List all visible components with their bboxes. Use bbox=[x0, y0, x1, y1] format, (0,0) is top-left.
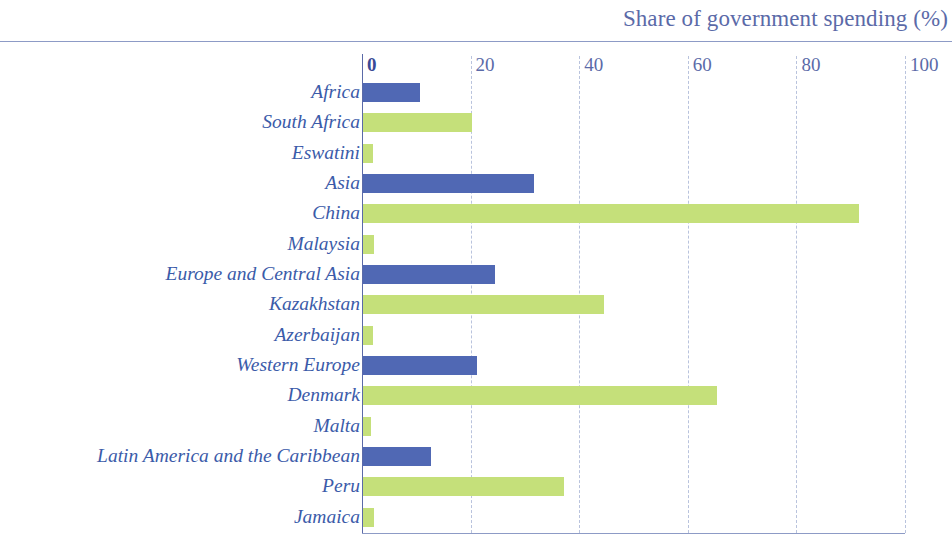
x-axis-tick-label-0: 0 bbox=[367, 54, 377, 76]
chart-row: Latin America and the Caribbean bbox=[0, 442, 952, 472]
bar-asia bbox=[363, 174, 534, 193]
chart-row: Africa bbox=[0, 78, 952, 108]
chart-row: Kazakhstan bbox=[0, 290, 952, 320]
chart-row: Azerbaijan bbox=[0, 321, 952, 351]
chart-row: Peru bbox=[0, 472, 952, 502]
category-label-azerbaijan: Azerbaijan bbox=[0, 322, 360, 348]
category-label-western-europe: Western Europe bbox=[0, 352, 360, 378]
chart-row: South Africa bbox=[0, 108, 952, 138]
bar-azerbaijan bbox=[363, 326, 373, 345]
chart-row: Denmark bbox=[0, 381, 952, 411]
bar-latin-america-and-the-caribbean bbox=[363, 447, 431, 466]
category-label-eswatini: Eswatini bbox=[0, 140, 360, 166]
chart-row: Europe and Central Asia bbox=[0, 260, 952, 290]
x-axis-tick-label-40: 40 bbox=[584, 54, 603, 76]
category-label-malta: Malta bbox=[0, 413, 360, 439]
category-label-jamaica: Jamaica bbox=[0, 504, 360, 530]
category-label-africa: Africa bbox=[0, 79, 360, 105]
category-label-denmark: Denmark bbox=[0, 382, 360, 408]
category-label-south-africa: South Africa bbox=[0, 109, 360, 135]
x-axis-tick-label-80: 80 bbox=[801, 54, 820, 76]
bar-denmark bbox=[363, 386, 717, 405]
bar-malta bbox=[363, 417, 371, 436]
category-label-china: China bbox=[0, 200, 360, 226]
bar-western-europe bbox=[363, 356, 477, 375]
bar-europe-and-central-asia bbox=[363, 265, 495, 284]
x-axis-tick-label-100: 100 bbox=[910, 54, 939, 76]
chart-title: Share of government spending (%) bbox=[623, 6, 948, 32]
chart-row: Western Europe bbox=[0, 351, 952, 381]
bar-malaysia bbox=[363, 235, 374, 254]
bar-china bbox=[363, 204, 859, 223]
axis-baseline bbox=[362, 533, 905, 534]
plot-area: 020406080100AfricaSouth AfricaEswatiniAs… bbox=[362, 78, 905, 533]
category-label-latin-america-and-the-caribbean: Latin America and the Caribbean bbox=[0, 443, 360, 469]
chart-row: Eswatini bbox=[0, 139, 952, 169]
chart-container: Share of government spending (%) 0204060… bbox=[0, 0, 952, 543]
chart-row: Asia bbox=[0, 169, 952, 199]
bar-jamaica bbox=[363, 508, 374, 527]
chart-row: Malaysia bbox=[0, 230, 952, 260]
x-axis-tick-label-60: 60 bbox=[693, 54, 712, 76]
bar-south-africa bbox=[363, 113, 472, 132]
category-label-peru: Peru bbox=[0, 473, 360, 499]
chart-row: China bbox=[0, 199, 952, 229]
category-label-europe-and-central-asia: Europe and Central Asia bbox=[0, 261, 360, 287]
category-label-asia: Asia bbox=[0, 170, 360, 196]
x-axis-tick-label-20: 20 bbox=[476, 54, 495, 76]
category-label-kazakhstan: Kazakhstan bbox=[0, 291, 360, 317]
bar-eswatini bbox=[363, 144, 373, 163]
title-divider bbox=[0, 41, 952, 42]
bar-kazakhstan bbox=[363, 295, 604, 314]
chart-row: Malta bbox=[0, 412, 952, 442]
bar-peru bbox=[363, 477, 564, 496]
chart-row: Jamaica bbox=[0, 503, 952, 533]
category-label-malaysia: Malaysia bbox=[0, 231, 360, 257]
bar-africa bbox=[363, 83, 420, 102]
